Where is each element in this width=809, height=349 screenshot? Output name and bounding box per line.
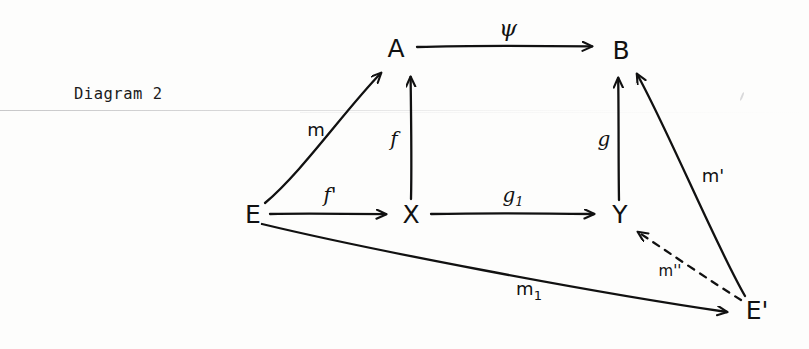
edge-label-g1-subscript: 1	[515, 194, 523, 209]
edge-label-psi: ψ	[499, 15, 518, 41]
edge-m1-E-to-Eprime	[262, 224, 727, 312]
edge-label-m1: m1	[516, 278, 542, 303]
edge-mprime-Eprime-to-B	[637, 74, 745, 296]
edge-label-m: m	[307, 119, 325, 140]
edge-label-m-prime: m'	[702, 165, 724, 186]
edge-fprime-E-to-X	[270, 214, 386, 215]
edge-label-g1: g1	[502, 183, 523, 209]
edge-mdoubleprime-Eprime-to-Y	[638, 232, 741, 300]
edge-f-X-to-A	[411, 77, 412, 199]
commutative-diagram: A B E X Y E' ψ f m f' g1 g m' m1 m''	[0, 0, 809, 349]
node-B: B	[612, 36, 629, 65]
edge-label-m1-subscript: 1	[534, 288, 542, 303]
node-A: A	[387, 34, 404, 63]
edge-psi-A-to-B	[417, 46, 592, 47]
node-Y: Y	[611, 200, 628, 229]
edge-label-g: g	[598, 127, 611, 151]
edge-g-Y-to-B	[618, 78, 619, 200]
edge-label-g1-base: g	[502, 183, 515, 207]
edge-label-f: f	[388, 127, 401, 151]
diagram-page: Diagram 2 A B E X Y E'	[0, 0, 809, 349]
node-E: E	[245, 200, 261, 229]
node-X: X	[402, 200, 419, 229]
node-E-prime: E'	[746, 296, 769, 325]
edge-g1-X-to-Y	[431, 213, 594, 214]
edge-label-f-prime: f'	[322, 183, 337, 207]
edge-label-m1-base: m	[516, 278, 534, 299]
edge-label-m-double-prime: m''	[659, 262, 682, 280]
